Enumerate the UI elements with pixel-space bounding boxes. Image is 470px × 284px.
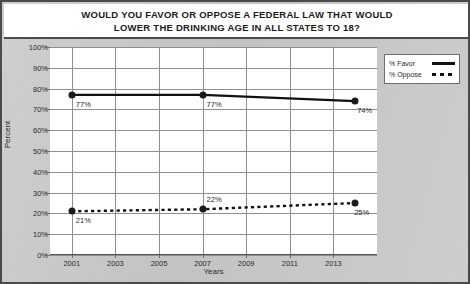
gridline-horizontal bbox=[50, 47, 377, 48]
y-tick-mark bbox=[46, 172, 50, 173]
gridline-horizontal bbox=[50, 68, 377, 69]
x-tick-mark bbox=[246, 255, 247, 258]
plot-area bbox=[50, 47, 377, 255]
gridline-vertical bbox=[72, 47, 73, 255]
y-tick-mark bbox=[46, 213, 50, 214]
y-tick-label: 40% bbox=[4, 167, 48, 176]
y-tick-mark bbox=[46, 193, 50, 194]
y-tick-label: 80% bbox=[4, 84, 48, 93]
chart-title-line-1: WOULD YOU FAVOR OR OPPOSE A FEDERAL LAW … bbox=[81, 8, 392, 21]
chart-title: WOULD YOU FAVOR OR OPPOSE A FEDERAL LAW … bbox=[4, 4, 470, 39]
y-axis-ticks: 100%90%80%70%60%50%40%30%20%10%0% bbox=[2, 47, 48, 255]
y-tick-label: 100% bbox=[4, 43, 48, 52]
gridline-horizontal bbox=[50, 151, 377, 152]
chart-title-line-2: LOWER THE DRINKING AGE IN ALL STATES TO … bbox=[114, 21, 360, 34]
gridline-horizontal bbox=[50, 172, 377, 173]
gridline-vertical bbox=[159, 47, 160, 255]
chart-figure: WOULD YOU FAVOR OR OPPOSE A FEDERAL LAW … bbox=[0, 0, 470, 284]
y-tick-mark bbox=[46, 109, 50, 110]
y-tick-mark bbox=[46, 130, 50, 131]
legend-label-oppose: % Oppose bbox=[389, 71, 432, 78]
gridline-horizontal bbox=[50, 130, 377, 131]
legend-item-oppose: % Oppose bbox=[389, 69, 455, 80]
gridline-vertical bbox=[290, 47, 291, 255]
x-tick-mark bbox=[159, 255, 160, 258]
y-tick-mark bbox=[46, 47, 50, 48]
y-tick-mark bbox=[46, 68, 50, 69]
legend-label-favor: % Favor bbox=[389, 60, 432, 67]
gridline-horizontal bbox=[50, 213, 377, 214]
y-tick-label: 90% bbox=[4, 63, 48, 72]
gridline-horizontal bbox=[50, 193, 377, 194]
x-tick-mark bbox=[333, 255, 334, 258]
gridline-vertical bbox=[203, 47, 204, 255]
y-tick-mark bbox=[46, 234, 50, 235]
x-tick-mark bbox=[72, 255, 73, 258]
y-tick-label: 30% bbox=[4, 188, 48, 197]
legend-swatch-solid-line-icon bbox=[432, 62, 455, 65]
gridline-horizontal bbox=[50, 109, 377, 110]
x-tick-mark bbox=[290, 255, 291, 258]
y-tick-mark bbox=[46, 89, 50, 90]
y-tick-label: 70% bbox=[4, 105, 48, 114]
gridline-horizontal bbox=[50, 234, 377, 235]
x-tick-mark bbox=[203, 255, 204, 258]
x-axis-title: Years bbox=[50, 267, 377, 276]
gridline-vertical bbox=[115, 47, 116, 255]
x-tick-mark bbox=[115, 255, 116, 258]
gridline-vertical bbox=[333, 47, 334, 255]
legend-item-favor: % Favor bbox=[389, 58, 455, 69]
y-axis-title: Percent bbox=[3, 121, 12, 149]
gridline-vertical bbox=[246, 47, 247, 255]
y-tick-mark bbox=[46, 151, 50, 152]
y-tick-label: 10% bbox=[4, 230, 48, 239]
legend-swatch-dashed-line-icon bbox=[432, 73, 455, 76]
y-tick-label: 0% bbox=[4, 251, 48, 260]
gridline-horizontal bbox=[50, 89, 377, 90]
chart-legend: % Favor % Oppose bbox=[384, 54, 460, 84]
y-tick-label: 20% bbox=[4, 209, 48, 218]
